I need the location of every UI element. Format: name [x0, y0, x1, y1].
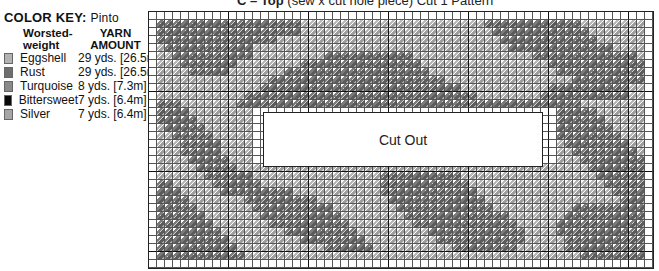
color-key-item: Turquoise8 yds. [7.3m]: [4, 79, 144, 93]
color-swatch-icon: [4, 109, 13, 120]
yarn-amount: 29 yds. [26.5m]: [78, 65, 144, 79]
yarn-color-name: Eggshell: [20, 51, 78, 65]
yarn-color-name: Rust: [20, 65, 78, 79]
yarn-amount: 7 yds. [6.4m]: [78, 107, 144, 121]
yarn-color-name: Turquoise: [20, 79, 78, 93]
chart-title-bold: C – Top: [237, 0, 284, 8]
yarn-amount: 7 yds. [6.4m]: [78, 93, 144, 107]
yarn-type-header: Worsted-weight: [4, 27, 87, 51]
color-key-item: Silver7 yds. [6.4m]: [4, 107, 144, 121]
color-key-label: COLOR KEY:: [4, 10, 87, 25]
yarn-amount-header: YARN AMOUNT: [87, 27, 144, 51]
yarn-amount: 29 yds. [26.5m]: [78, 51, 144, 65]
chart-title-rest: (sew x cut hole piece) Cut 1 Pattern: [284, 0, 494, 8]
chart-title: C – Top (sew x cut hole piece) Cut 1 Pat…: [237, 0, 493, 8]
yarn-color-name: Bittersweet: [19, 93, 78, 107]
color-swatch-icon: [4, 67, 13, 78]
yarn-color-name: Silver: [20, 107, 78, 121]
color-key-item: Rust29 yds. [26.5m]: [4, 65, 144, 79]
color-key-item: Eggshell29 yds. [26.5m]: [4, 51, 144, 65]
color-swatch-icon: [4, 95, 12, 106]
color-swatch-icon: [4, 53, 13, 64]
color-key-item: Bittersweet7 yds. [6.4m]: [4, 93, 144, 107]
cut-out-label: Cut Out: [379, 132, 427, 148]
cut-out-region: Cut Out: [263, 112, 543, 167]
color-key-subheading: Pinto: [90, 11, 118, 25]
color-swatch-icon: [4, 81, 13, 92]
yarn-amount: 8 yds. [7.3m]: [78, 79, 144, 93]
color-key-list: Eggshell29 yds. [26.5m]Rust29 yds. [26.5…: [4, 51, 144, 121]
color-key: COLOR KEY: Pinto Worsted-weight YARN AMO…: [4, 10, 144, 121]
color-key-heading: COLOR KEY: Pinto: [4, 10, 144, 25]
color-key-columns: Worsted-weight YARN AMOUNT: [4, 27, 144, 51]
